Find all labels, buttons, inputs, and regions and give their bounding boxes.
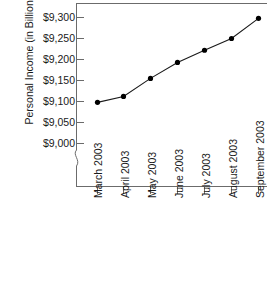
x-tick-label: May 2003 [147, 152, 157, 198]
data-point-marker [229, 36, 234, 41]
x-tick-label: June 2003 [174, 149, 184, 198]
data-point-marker [202, 48, 207, 53]
data-point-marker [175, 60, 180, 65]
axis-break-squiggle-icon [75, 150, 78, 166]
data-point-markers [95, 16, 261, 105]
data-point-marker [256, 16, 261, 21]
data-point-marker [121, 94, 126, 99]
x-tick-label: September 2003 [255, 120, 265, 198]
x-tick-label: April 2003 [120, 151, 130, 198]
data-point-marker [95, 100, 100, 105]
x-tick-label: July 2003 [201, 153, 211, 198]
x-tick-label: August 2003 [228, 139, 238, 198]
data-point-marker [148, 76, 153, 81]
chart-container: Personal Income (in Billions) $9,300 $9,… [0, 0, 267, 290]
y-tick-marks [77, 18, 84, 144]
x-tick-label: March 2003 [93, 143, 103, 198]
